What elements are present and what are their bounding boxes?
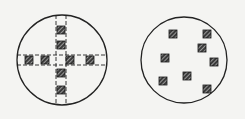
colony-scattered <box>210 58 218 66</box>
colony-horizontal <box>66 56 74 64</box>
colony-scattered <box>169 30 177 38</box>
right-plate <box>141 17 227 103</box>
colony-scattered <box>161 54 169 62</box>
colony-vertical <box>57 26 65 34</box>
diagram <box>0 0 245 119</box>
colony-scattered <box>203 85 211 93</box>
colony-scattered <box>198 44 206 52</box>
colony-vertical <box>57 69 65 77</box>
colony-scattered <box>203 30 211 38</box>
left-plate <box>17 15 107 105</box>
colony-horizontal <box>41 56 49 64</box>
colony-horizontal <box>25 56 33 64</box>
colony-scattered <box>183 72 191 80</box>
colony-scattered <box>159 77 167 85</box>
colony-horizontal <box>86 56 94 64</box>
colony-vertical <box>57 86 65 94</box>
colony-vertical <box>57 41 65 49</box>
